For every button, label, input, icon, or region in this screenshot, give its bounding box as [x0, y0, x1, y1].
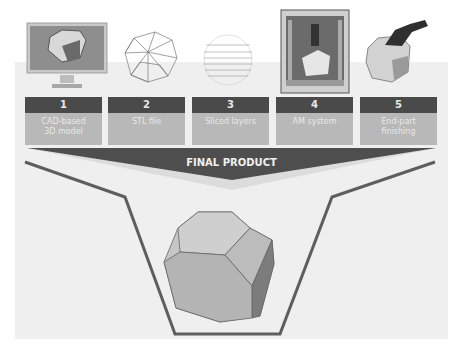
step-4: 4 AM system: [276, 97, 353, 145]
step-number: 5: [360, 97, 437, 113]
sliced-layers-icon: [204, 35, 252, 85]
computer-monitor-icon: [27, 23, 107, 88]
step-label: Sliced layers: [192, 113, 269, 145]
step-3: 3 Sliced layers: [192, 97, 269, 145]
step-number: 4: [276, 97, 353, 113]
truncated-cube-icon: [164, 212, 274, 322]
3d-printer-icon: [281, 10, 349, 93]
step-5: 5 End-part finishing: [360, 97, 437, 145]
step-label: AM system: [276, 113, 353, 145]
step-label: End-part finishing: [360, 113, 437, 145]
step-label: STL file: [108, 113, 185, 145]
diagram-graphics: [0, 0, 463, 355]
step-number: 3: [192, 97, 269, 113]
step-2: 2 STL file: [108, 97, 185, 145]
step-label: CAD-based 3D model: [25, 113, 102, 145]
step-number: 1: [25, 97, 102, 113]
wireframe-mesh-icon: [125, 32, 177, 82]
final-product-label: FINAL PRODUCT: [0, 157, 463, 168]
step-1: 1 CAD-based 3D model: [25, 97, 102, 145]
finishing-tool-icon: [366, 20, 428, 82]
step-number: 2: [108, 97, 185, 113]
